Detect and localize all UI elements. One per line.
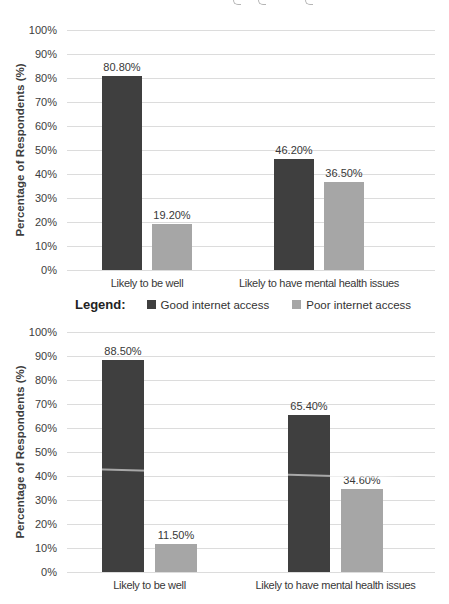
category-label: Likely to have mental health issues bbox=[255, 579, 415, 591]
y-tick-label: 80% bbox=[0, 373, 57, 388]
y-tick-label: 60% bbox=[0, 421, 57, 436]
bar-poor-internet-access: 34.60% bbox=[341, 489, 383, 572]
bar-group: 65.40%34.60% bbox=[288, 415, 383, 572]
bar-value-label: 11.50% bbox=[158, 529, 195, 541]
y-tick-label: 100% bbox=[0, 325, 57, 340]
y-tick-label: 20% bbox=[0, 517, 57, 532]
y-tick-label: 30% bbox=[0, 493, 57, 508]
y-tick-label: 70% bbox=[0, 397, 57, 412]
y-tick-label: 40% bbox=[0, 469, 57, 484]
y-tick-label: 90% bbox=[0, 349, 57, 364]
category-label: Likely to be well bbox=[113, 579, 186, 591]
bar-good-internet-access: 88.50% bbox=[102, 360, 144, 572]
figure-page: Percentage of Respondents (%) 0%10%20%30… bbox=[0, 0, 449, 604]
chart-bottom-internet-access-wellbeing: Percentage of Respondents (%) 0%10%20%30… bbox=[0, 0, 449, 604]
bar-value-label: 88.50% bbox=[104, 345, 141, 357]
bar-good-internet-access: 65.40% bbox=[288, 415, 330, 572]
y-tick-label: 10% bbox=[0, 541, 57, 556]
bar-group: 88.50%11.50% bbox=[102, 360, 197, 572]
y-tick-label: 50% bbox=[0, 445, 57, 460]
bar-value-label: 65.40% bbox=[290, 400, 327, 412]
bar-poor-internet-access: 11.50% bbox=[155, 544, 197, 572]
y-tick-label: 0% bbox=[0, 565, 57, 580]
